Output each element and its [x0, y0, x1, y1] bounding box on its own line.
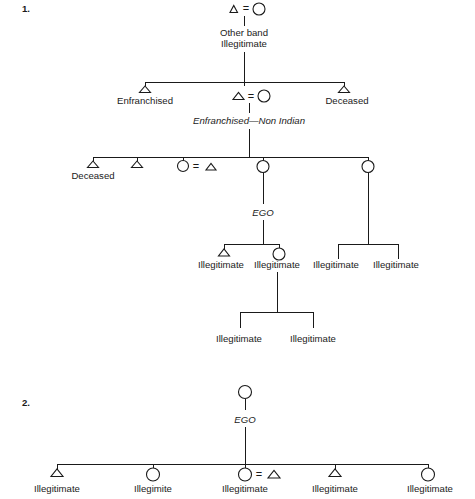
triangle-male-symbol[interactable] — [206, 164, 216, 171]
label-enfranchised-non-indian: Enfranchised—Non Indian — [193, 115, 305, 126]
triangle-male-symbol[interactable] — [51, 469, 63, 477]
gen5-group: Illegitimate Illegitimate — [216, 312, 336, 344]
label-illegitimate: Illegitimate — [198, 259, 244, 270]
label-illegitimate: Illegitimate — [290, 333, 336, 344]
circle-female-symbol[interactable] — [178, 161, 189, 172]
marriage-equals-symbol: = — [193, 160, 199, 172]
gen4-left-branch: Illegitimate Illegitimate — [198, 244, 300, 312]
marriage-equals-symbol: = — [248, 90, 254, 102]
note-other-band: Other band — [220, 27, 268, 38]
triangle-male-symbol[interactable] — [268, 471, 280, 479]
label-illegitimate: Illegitimate — [34, 483, 80, 494]
label-ego: EGO — [252, 207, 274, 218]
diagram-2: 2. EGO Illegitimate Illegimite = Illegit… — [22, 386, 453, 495]
kinship-diagram-figure: 1. = Other band Illegitimate Enfranchise… — [0, 0, 475, 499]
marriage-equals-symbol: = — [256, 468, 262, 480]
triangle-male-symbol[interactable] — [339, 86, 350, 93]
triangle-male-symbol[interactable] — [140, 86, 151, 93]
circle-female-symbol[interactable] — [147, 468, 160, 481]
triangle-male-symbol[interactable] — [329, 469, 341, 477]
triangle-male-symbol[interactable] — [132, 161, 143, 168]
circle-female-symbol[interactable] — [239, 468, 252, 481]
label-illegitimate: Illegitimate — [254, 259, 300, 270]
marriage-equals-symbol: = — [243, 2, 249, 14]
circle-female-symbol[interactable] — [253, 3, 265, 15]
circle-female-symbol[interactable] — [362, 161, 374, 173]
label-illegimite: Illegimite — [134, 483, 172, 494]
triangle-male-symbol[interactable] — [88, 161, 99, 168]
label-illegitimate: Illegitimate — [407, 483, 453, 494]
label-enfranchised: Enfranchised — [117, 95, 173, 106]
diagram-1: 1. = Other band Illegitimate Enfranchise… — [22, 2, 419, 344]
gen2-group: Enfranchised = Enfranchised—Non Indian D… — [117, 82, 369, 157]
circle-female-symbol[interactable] — [258, 90, 270, 102]
label-illegitimate: Illegitimate — [373, 259, 419, 270]
label-deceased: Deceased — [325, 95, 368, 106]
triangle-male-symbol[interactable] — [233, 93, 244, 100]
diagram-2-number: 2. — [22, 397, 30, 408]
circle-female-symbol[interactable] — [422, 468, 435, 481]
circle-female-symbol-ego[interactable] — [239, 386, 252, 399]
gen4-right-branch: Illegitimate Illegitimate — [313, 244, 419, 270]
triangle-male-symbol[interactable] — [219, 249, 230, 256]
circle-female-symbol-ego[interactable] — [257, 161, 269, 173]
triangle-male-symbol[interactable] — [230, 6, 238, 13]
gen3-group: Deceased = EGO — [71, 157, 374, 244]
note-illegitimate: Illegitimate — [221, 38, 267, 49]
diagram-1-number: 1. — [22, 3, 30, 14]
label-illegitimate: Illegitimate — [222, 483, 268, 494]
gen1-group: = Other band Illegitimate — [220, 2, 268, 82]
label-deceased: Deceased — [71, 170, 114, 181]
label-illegitimate: Illegitimate — [312, 483, 358, 494]
label-illegitimate: Illegitimate — [313, 259, 359, 270]
label-ego: EGO — [234, 414, 256, 425]
label-illegitimate: Illegitimate — [216, 333, 262, 344]
